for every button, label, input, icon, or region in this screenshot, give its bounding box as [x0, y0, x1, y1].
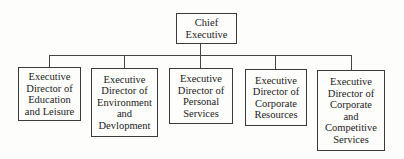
- child-connector-3: [200, 55, 201, 68]
- personal-services-box: Executive Director of Personal Services: [169, 68, 233, 124]
- corporate-resources-box: Executive Director of Corporate Resource…: [245, 69, 307, 126]
- child-connector-1: [49, 55, 50, 67]
- environment-development-box: Executive Director of Environment and De…: [91, 68, 158, 137]
- education-leisure-box: Executive Director of Education and Leis…: [18, 67, 81, 121]
- corporate-competitive-services-box: Executive Director of Corporate and Comp…: [317, 70, 385, 151]
- child-connector-4: [275, 55, 276, 69]
- child-connector-2: [124, 55, 125, 68]
- child-connector-5: [351, 55, 352, 70]
- chief-executive-box: Chief Executive: [176, 13, 237, 44]
- root-connector: [200, 43, 201, 55]
